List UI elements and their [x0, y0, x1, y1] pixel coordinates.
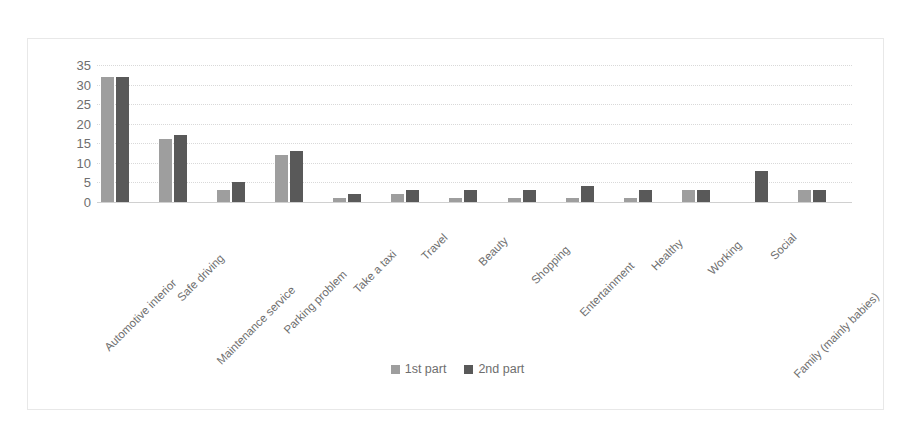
y-axis-tick-label: 25	[77, 98, 91, 111]
y-axis-tick-label: 10	[77, 157, 91, 170]
bar-series-2[interactable]	[406, 190, 419, 202]
y-axis-tick-label: 0	[84, 196, 91, 209]
bar-group	[736, 65, 794, 202]
bar-series-2[interactable]	[755, 171, 768, 202]
bar-series-2[interactable]	[813, 190, 826, 202]
bar-series-2[interactable]	[174, 135, 187, 202]
legend-item[interactable]: 2nd part	[464, 362, 524, 376]
legend-item[interactable]: 1st part	[391, 362, 447, 376]
bar-group	[387, 65, 445, 202]
bar-series-2[interactable]	[697, 190, 710, 202]
bar-group	[678, 65, 736, 202]
bar-series-1[interactable]	[159, 139, 172, 202]
y-axis-tick-label: 15	[77, 137, 91, 150]
y-axis-tick-label: 35	[77, 59, 91, 72]
legend-swatch-icon	[391, 365, 400, 374]
bar-group	[445, 65, 503, 202]
bar-series-1[interactable]	[682, 190, 695, 202]
bar-series-2[interactable]	[116, 77, 129, 202]
y-axis-tick-label: 30	[77, 79, 91, 92]
bar-group	[504, 65, 562, 202]
bar-series-2[interactable]	[581, 186, 594, 202]
bar-group	[329, 65, 387, 202]
y-axis-tick-label: 5	[84, 176, 91, 189]
bar-series-1[interactable]	[101, 77, 114, 202]
bar-series-2[interactable]	[639, 190, 652, 202]
bar-series-1[interactable]	[391, 194, 404, 202]
bar-series-2[interactable]	[232, 182, 245, 202]
bar-series-2[interactable]	[348, 194, 361, 202]
legend-label: 2nd part	[478, 362, 524, 376]
legend-swatch-icon	[464, 365, 473, 374]
bar-group	[271, 65, 329, 202]
bar-group	[213, 65, 271, 202]
bar-group	[794, 65, 852, 202]
bar-series-1[interactable]	[217, 190, 230, 202]
bar-group	[155, 65, 213, 202]
x-axis-line	[97, 202, 852, 203]
bar-series-1[interactable]	[798, 190, 811, 202]
chart-legend: 1st part2nd part	[0, 362, 915, 376]
bar-group	[562, 65, 620, 202]
bar-group	[97, 65, 155, 202]
legend-label: 1st part	[405, 362, 447, 376]
bar-series-2[interactable]	[464, 190, 477, 202]
y-axis-tick-label: 20	[77, 118, 91, 131]
bar-group	[620, 65, 678, 202]
bar-series-2[interactable]	[290, 151, 303, 202]
plot-area	[97, 65, 852, 202]
bar-series-2[interactable]	[523, 190, 536, 202]
bar-series-1[interactable]	[275, 155, 288, 202]
y-axis: 05101520253035	[55, 56, 91, 211]
